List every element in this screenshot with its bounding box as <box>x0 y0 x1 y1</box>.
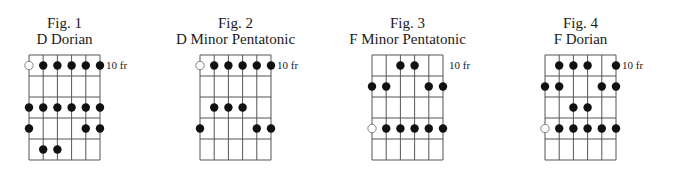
root-note-open-circle-icon <box>368 124 376 132</box>
figure-title: Fig. 4 F Dorian <box>501 15 661 47</box>
note-dot-icon <box>39 103 47 111</box>
note-dot-icon <box>569 124 577 132</box>
note-dot-icon <box>583 103 591 111</box>
note-dot-icon <box>425 82 433 90</box>
note-dot-icon <box>439 82 447 90</box>
fretboard-grid <box>192 47 279 168</box>
note-dot-icon <box>82 103 90 111</box>
figure-title: Fig. 1 D Dorian <box>0 15 145 47</box>
note-dot-icon <box>39 61 47 69</box>
note-dot-icon <box>53 145 61 153</box>
note-dot-icon <box>598 82 606 90</box>
note-dot-icon <box>555 124 563 132</box>
note-dot-icon <box>396 124 404 132</box>
note-dot-icon <box>224 61 232 69</box>
note-dot-icon <box>368 82 376 90</box>
note-dot-icon <box>82 124 90 132</box>
root-note-open-circle-icon <box>541 124 549 132</box>
note-dot-icon <box>382 124 390 132</box>
note-dot-icon <box>569 61 577 69</box>
note-dot-icon <box>210 103 218 111</box>
fretboard-grid <box>364 47 451 168</box>
note-dot-icon <box>410 61 418 69</box>
note-dot-icon <box>583 61 591 69</box>
scale-name: F Dorian <box>501 31 661 47</box>
note-dot-icon <box>410 124 418 132</box>
note-dot-icon <box>267 61 275 69</box>
figure-label: Fig. 1 <box>0 15 145 31</box>
fret-position-label: 10 fr <box>106 59 127 71</box>
note-dot-icon <box>210 61 218 69</box>
note-dot-icon <box>238 61 246 69</box>
fretboard-grid <box>537 47 624 168</box>
figure-label: Fig. 2 <box>156 15 316 31</box>
root-note-open-circle-icon <box>25 61 33 69</box>
note-dot-icon <box>96 124 104 132</box>
note-dot-icon <box>612 61 620 69</box>
figure-title: Fig. 3 F Minor Pentatonic <box>328 15 488 47</box>
note-dot-icon <box>439 124 447 132</box>
note-dot-icon <box>583 124 591 132</box>
fret-position-label: 10 fr <box>449 59 470 71</box>
fret-position-label: 10 fr <box>622 59 643 71</box>
note-dot-icon <box>53 103 61 111</box>
note-dot-icon <box>382 82 390 90</box>
root-note-open-circle-icon <box>196 61 204 69</box>
scale-name: D Minor Pentatonic <box>156 31 316 47</box>
note-dot-icon <box>196 124 204 132</box>
note-dot-icon <box>396 61 404 69</box>
scale-name: D Dorian <box>0 31 145 47</box>
note-dot-icon <box>253 61 261 69</box>
note-dot-icon <box>555 82 563 90</box>
figure-title: Fig. 2 D Minor Pentatonic <box>156 15 316 47</box>
note-dot-icon <box>612 124 620 132</box>
fret-position-label: 10 fr <box>277 59 298 71</box>
note-dot-icon <box>96 61 104 69</box>
note-dot-icon <box>541 82 549 90</box>
scale-name: F Minor Pentatonic <box>328 31 488 47</box>
note-dot-icon <box>53 61 61 69</box>
note-dot-icon <box>569 103 577 111</box>
note-dot-icon <box>425 124 433 132</box>
note-dot-icon <box>238 103 246 111</box>
fretboard-grid <box>21 47 108 168</box>
note-dot-icon <box>253 124 261 132</box>
figure-label: Fig. 4 <box>501 15 661 31</box>
note-dot-icon <box>39 145 47 153</box>
note-dot-icon <box>96 103 104 111</box>
note-dot-icon <box>555 61 563 69</box>
note-dot-icon <box>25 124 33 132</box>
note-dot-icon <box>612 82 620 90</box>
note-dot-icon <box>67 61 75 69</box>
note-dot-icon <box>598 124 606 132</box>
note-dot-icon <box>67 103 75 111</box>
note-dot-icon <box>224 103 232 111</box>
note-dot-icon <box>25 103 33 111</box>
note-dot-icon <box>82 61 90 69</box>
figure-label: Fig. 3 <box>328 15 488 31</box>
note-dot-icon <box>267 124 275 132</box>
